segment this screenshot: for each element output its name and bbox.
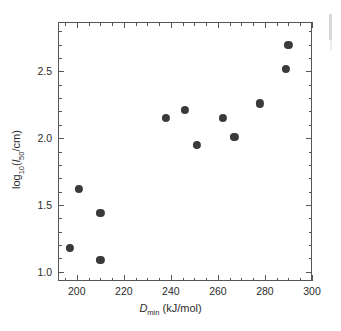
y-tick-mark [58,152,62,153]
x-tick-mark-top [100,22,101,26]
x-tick-mark-top [136,22,137,26]
x-axis-label-subscript: min [147,308,159,317]
y-tick-mark-right [306,71,312,72]
x-tick-mark [124,275,125,281]
plot-area [58,22,312,281]
x-tick-mark [265,275,266,281]
x-tick-mark [171,275,172,281]
y-tick-mark-right [306,205,312,206]
x-tick-mark [277,278,278,282]
x-tick-mark-top [183,22,184,26]
y-tick-mark-right [306,138,312,139]
y-tick-mark [58,85,62,86]
y-tick-label: 1.0 [24,266,52,278]
x-tick-mark [112,278,113,282]
y-tick-mark-right [309,98,313,99]
page-edge-artifact-lower [330,40,332,50]
x-axis-label: Dmin (kJ/mol) [0,302,341,317]
y-axis-label-variable: l [10,160,22,162]
x-tick-mark-top [194,22,195,26]
y-tick-mark [58,31,62,32]
x-tick-mark-top [265,22,266,28]
y-tick-mark-right [309,111,313,112]
y-tick-mark [58,232,62,233]
y-tick-mark [58,58,62,59]
x-tick-label: 200 [68,285,86,297]
y-tick-mark-right [309,152,313,153]
x-tick-mark-top [218,22,219,28]
x-tick-label: 300 [303,285,321,297]
x-tick-label: 280 [256,285,274,297]
x-tick-mark-top [253,22,254,26]
y-tick-mark [58,272,64,273]
y-tick-mark-right [309,192,313,193]
x-tick-mark [89,278,90,282]
y-tick-label: 2.0 [24,132,52,144]
y-axis-label-prefix-subscript: 10 [17,166,26,174]
x-tick-mark-top [241,22,242,26]
y-tick-label: 1.5 [24,199,52,211]
x-tick-mark [77,275,78,281]
x-tick-mark [65,278,66,282]
y-tick-mark [58,98,62,99]
x-tick-mark-top [77,22,78,28]
y-tick-mark [58,71,64,72]
x-tick-mark [206,278,207,282]
y-tick-mark [58,138,64,139]
y-tick-mark [58,218,62,219]
x-tick-mark-top [230,22,231,26]
x-tick-mark-top [171,22,172,28]
y-tick-mark-right [309,218,313,219]
y-tick-mark-right [309,31,313,32]
x-tick-mark-top [300,22,301,26]
y-tick-label: 2.5 [24,65,52,77]
y-tick-mark-right [309,258,313,259]
y-tick-mark-right [309,178,313,179]
x-axis-label-units: (kJ/mol) [163,302,202,314]
x-tick-mark [159,278,160,282]
y-tick-mark [58,258,62,259]
x-tick-mark-top [159,22,160,26]
x-tick-mark [100,278,101,282]
x-tick-mark-top [277,22,278,26]
y-tick-mark-right [306,272,312,273]
y-tick-mark-right [309,45,313,46]
y-tick-mark [58,165,62,166]
x-tick-mark [136,278,137,282]
scatter-plot-figure: 200220240260280300 1.01.52.02.5 Dmin (kJ… [0,0,341,331]
y-axis-label-prefix: log [10,174,22,189]
y-axis-label: log10(l50/cm) [10,90,25,230]
y-tick-mark-right [309,232,313,233]
page-edge-artifact [329,14,332,40]
y-tick-mark [58,111,62,112]
x-tick-label: 240 [162,285,180,297]
y-tick-mark [58,178,62,179]
x-tick-mark-top [206,22,207,26]
x-tick-mark [312,275,313,281]
x-tick-mark-top [65,22,66,26]
x-tick-mark [230,278,231,282]
x-tick-mark [288,278,289,282]
y-tick-mark-right [309,85,313,86]
x-tick-mark-top [112,22,113,26]
x-tick-mark [253,278,254,282]
y-tick-mark [58,205,64,206]
x-tick-mark [241,278,242,282]
y-tick-mark-right [309,165,313,166]
x-tick-mark [300,278,301,282]
x-tick-mark-top [89,22,90,26]
x-tick-mark [147,278,148,282]
x-tick-mark [194,278,195,282]
y-tick-mark-right [309,245,313,246]
y-tick-mark-right [309,58,313,59]
y-tick-mark [58,45,62,46]
x-tick-mark [218,275,219,281]
x-tick-mark-top [312,22,313,28]
x-tick-label: 220 [115,285,133,297]
y-tick-mark [58,245,62,246]
x-tick-label: 260 [209,285,227,297]
y-axis-label-tail: /cm) [10,130,22,151]
y-axis-label-paren-open: ( [10,162,22,166]
y-axis-label-variable-subscript: 50 [17,152,26,160]
x-tick-mark-top [124,22,125,28]
